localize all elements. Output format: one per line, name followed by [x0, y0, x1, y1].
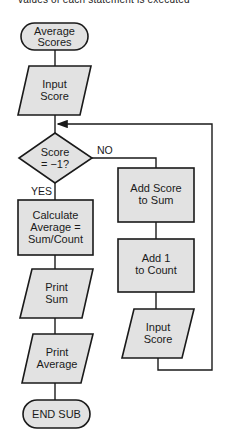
end-sub-terminator: END SUB [23, 400, 90, 428]
calc-label-line1: Calculate [33, 209, 79, 221]
printsum-label-line2: Sum [45, 293, 68, 305]
connector-decision-no [92, 158, 156, 168]
start-terminator: Average Scores [21, 23, 88, 50]
yes-label: YES [31, 185, 52, 197]
decision-score-minus-one: Score = −1? [19, 133, 92, 183]
start-label-line1: Average [34, 25, 75, 37]
input2-label-line2: Score [144, 333, 173, 345]
input2-label-line1: Input [146, 321, 170, 333]
decision-label-line2: = −1? [41, 158, 69, 170]
no-label: NO [97, 144, 113, 156]
calc-label-line3: Sum/Count [28, 233, 83, 245]
calculate-average-process: Calculate Average = Sum/Count [18, 200, 93, 255]
calc-label-line2: Average = [30, 221, 80, 233]
addsum-label-line2: to Sum [139, 194, 174, 206]
input1-label-line1: Input [42, 78, 66, 90]
start-label-line2: Scores [37, 36, 72, 48]
input1-label-line2: Score [40, 90, 69, 102]
end-label: END SUB [32, 408, 81, 420]
decision-label-line1: Score [41, 146, 70, 158]
input-score-2-io: Input Score [122, 309, 194, 358]
printsum-label-line1: Print [45, 281, 68, 293]
printavg-label-line1: Print [46, 346, 69, 358]
addcount-label-line1: Add 1 [142, 252, 171, 264]
addsum-label-line1: Add Score [130, 182, 181, 194]
print-sum-io: Print Sum [20, 269, 93, 318]
input-score-io: Input Score [18, 66, 91, 115]
addcount-label-line2: to Count [135, 264, 177, 276]
add-score-to-sum-process: Add Score to Sum [118, 168, 194, 222]
flowchart: Average Scores Input Score Score = −1? N… [0, 0, 229, 442]
printavg-label-line2: Average [37, 358, 78, 370]
print-average-io: Print Average [22, 334, 93, 383]
add-one-to-count-process: Add 1 to Count [118, 239, 194, 292]
